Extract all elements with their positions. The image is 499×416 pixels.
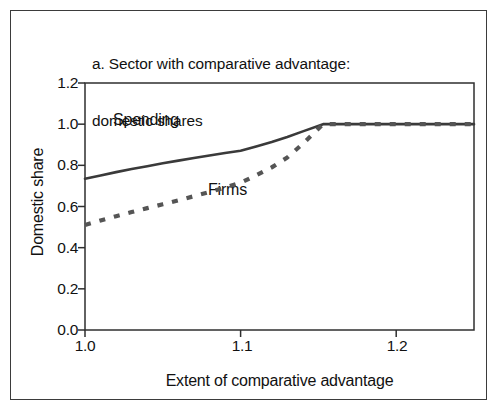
x-axis-ticks [85,330,396,337]
figure-root: a. Sector with comparative advantage: do… [0,0,499,416]
y-axis-ticks [78,83,85,330]
axis-lines [85,83,474,330]
plot-area [0,0,499,416]
plot-border [85,83,474,330]
series-paths [85,124,474,225]
series-line-spending [85,124,474,179]
